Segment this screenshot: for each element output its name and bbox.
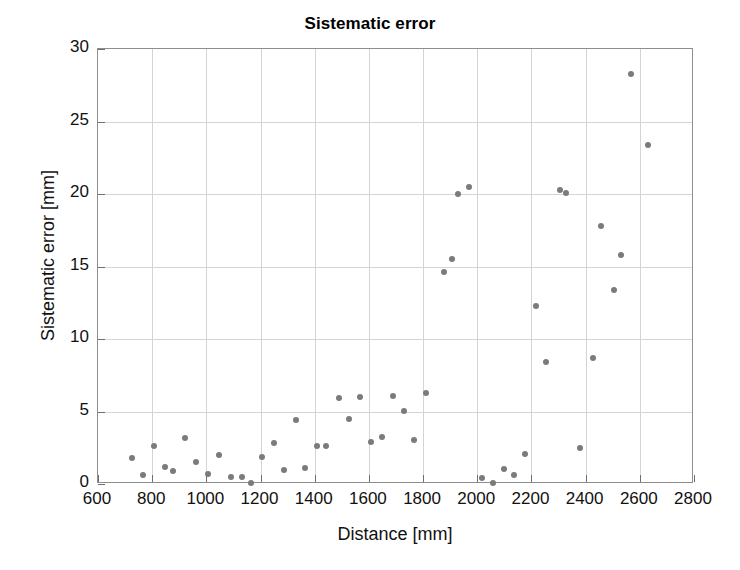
gridline-vertical <box>423 49 424 482</box>
x-tick-label: 2800 <box>658 489 728 509</box>
scatter-point <box>533 303 539 309</box>
chart-figure: Sistematic error 60080010001200140016001… <box>0 0 740 570</box>
y-tick-label: 0 <box>33 472 89 492</box>
gridline-horizontal <box>98 122 692 123</box>
plot-area <box>97 48 693 483</box>
scatter-point <box>455 191 461 197</box>
scatter-point <box>490 480 496 486</box>
gridline-vertical <box>152 49 153 482</box>
scatter-point <box>281 467 287 473</box>
scatter-point <box>557 187 563 193</box>
scatter-point <box>323 443 329 449</box>
x-tick-mark <box>152 475 153 482</box>
scatter-point <box>411 437 417 443</box>
x-axis-title: Distance [mm] <box>97 524 693 545</box>
scatter-point <box>129 455 135 461</box>
scatter-point <box>259 454 265 460</box>
scatter-point <box>441 269 447 275</box>
gridline-horizontal <box>98 194 692 195</box>
x-tick-mark <box>477 475 478 482</box>
scatter-point <box>357 394 363 400</box>
gridline-vertical <box>477 49 478 482</box>
scatter-point <box>618 252 624 258</box>
scatter-point <box>611 287 617 293</box>
scatter-point <box>151 443 157 449</box>
scatter-point <box>205 471 211 477</box>
scatter-point <box>170 468 176 474</box>
gridline-vertical <box>369 49 370 482</box>
scatter-point <box>522 451 528 457</box>
y-tick-mark <box>98 267 105 268</box>
x-tick-mark <box>423 475 424 482</box>
x-tick-mark <box>640 475 641 482</box>
scatter-point <box>390 393 396 399</box>
x-tick-mark <box>531 475 532 482</box>
y-tick-mark <box>98 484 105 485</box>
x-tick-mark <box>369 475 370 482</box>
y-tick-mark <box>98 122 105 123</box>
scatter-point <box>423 390 429 396</box>
scatter-point <box>193 459 199 465</box>
scatter-point <box>401 408 407 414</box>
x-tick-mark <box>586 475 587 482</box>
scatter-point <box>501 466 507 472</box>
scatter-point <box>216 452 222 458</box>
y-tick-mark <box>98 339 105 340</box>
scatter-point <box>239 474 245 480</box>
gridline-horizontal <box>98 412 692 413</box>
scatter-point <box>479 475 485 481</box>
scatter-point <box>368 439 374 445</box>
scatter-point <box>346 416 352 422</box>
scatter-point <box>228 474 234 480</box>
scatter-point <box>466 184 472 190</box>
y-axis-title: Sistematic error [mm] <box>38 91 59 421</box>
scatter-point <box>543 359 549 365</box>
scatter-point <box>590 355 596 361</box>
scatter-point <box>598 223 604 229</box>
gridline-vertical <box>640 49 641 482</box>
gridline-vertical <box>206 49 207 482</box>
scatter-point <box>302 465 308 471</box>
x-tick-mark <box>694 475 695 482</box>
scatter-point <box>577 445 583 451</box>
scatter-point <box>182 435 188 441</box>
x-tick-mark <box>261 475 262 482</box>
gridline-vertical <box>261 49 262 482</box>
page-title: Sistematic error <box>0 14 740 34</box>
scatter-point <box>563 190 569 196</box>
scatter-point <box>248 480 254 486</box>
scatter-point <box>336 395 342 401</box>
scatter-point <box>628 71 634 77</box>
y-tick-label: 30 <box>33 37 89 57</box>
scatter-point <box>379 434 385 440</box>
gridline-vertical <box>586 49 587 482</box>
x-tick-mark <box>98 475 99 482</box>
scatter-point <box>511 472 517 478</box>
gridline-horizontal <box>98 339 692 340</box>
y-tick-mark <box>98 412 105 413</box>
scatter-point <box>271 440 277 446</box>
scatter-point <box>645 142 651 148</box>
scatter-point <box>449 256 455 262</box>
scatter-point <box>162 464 168 470</box>
y-tick-mark <box>98 49 105 50</box>
x-tick-mark <box>315 475 316 482</box>
gridline-horizontal <box>98 267 692 268</box>
y-tick-mark <box>98 194 105 195</box>
gridline-vertical <box>315 49 316 482</box>
scatter-point <box>140 472 146 478</box>
scatter-point <box>314 443 320 449</box>
gridline-vertical <box>531 49 532 482</box>
scatter-point <box>293 417 299 423</box>
